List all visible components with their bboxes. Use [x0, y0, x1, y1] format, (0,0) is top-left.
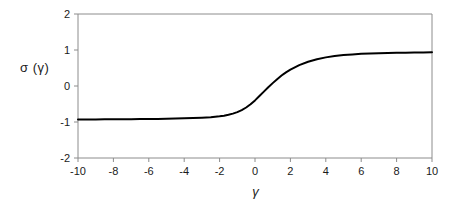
- series-line: [78, 52, 432, 119]
- x-tick-label: 8: [394, 165, 400, 177]
- x-tick-label: -8: [109, 165, 119, 177]
- y-tick-label: 1: [48, 44, 70, 56]
- x-tick-label: 0: [252, 165, 258, 177]
- x-tick-label: 6: [358, 165, 364, 177]
- x-tick-label: 2: [287, 165, 293, 177]
- x-axis-label-text: γ: [252, 184, 259, 199]
- x-tick-label: 4: [323, 165, 329, 177]
- y-axis-label-text: σ (γ): [20, 60, 49, 75]
- x-tick-label: -10: [70, 165, 86, 177]
- x-tick-label: -4: [179, 165, 189, 177]
- plot-area: [0, 0, 455, 209]
- plot-frame: [78, 14, 432, 158]
- y-axis-label: σ (γ): [20, 60, 49, 75]
- y-tick-label: -1: [48, 116, 70, 128]
- y-tick-label: 0: [48, 80, 70, 92]
- x-tick-label: 10: [426, 165, 438, 177]
- x-tick-label: -6: [144, 165, 154, 177]
- y-tick-label: 2: [48, 8, 70, 20]
- x-tick-label: -2: [215, 165, 225, 177]
- axis-ticks: [74, 14, 432, 162]
- y-tick-label: -2: [48, 152, 70, 164]
- chart-figure: σ (γ) γ -10-8-6-4-20246810210-1-2: [0, 0, 455, 209]
- data-series: [78, 52, 432, 119]
- x-axis-label: γ: [0, 184, 455, 199]
